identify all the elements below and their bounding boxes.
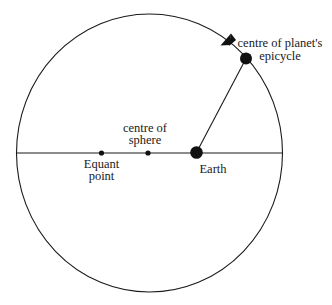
earth-dot bbox=[190, 146, 203, 159]
sphere-label-line2: sphere bbox=[129, 133, 162, 147]
epicycle-label-line2: epicycle bbox=[259, 49, 301, 63]
epicycle-centre-dot bbox=[240, 53, 252, 65]
earth-label: Earth bbox=[199, 162, 227, 176]
sphere-centre-dot bbox=[145, 150, 150, 155]
earth-to-epicycle-line bbox=[197, 59, 247, 153]
equant-point-dot bbox=[99, 150, 104, 155]
epicycle-label-line1: centre of planet's bbox=[238, 36, 323, 50]
diagram-canvas: centre of planet's epicycle centre of sp… bbox=[0, 0, 332, 305]
ptolemaic-diagram: centre of planet's epicycle centre of sp… bbox=[0, 0, 332, 305]
equant-label-line2: point bbox=[89, 169, 115, 183]
